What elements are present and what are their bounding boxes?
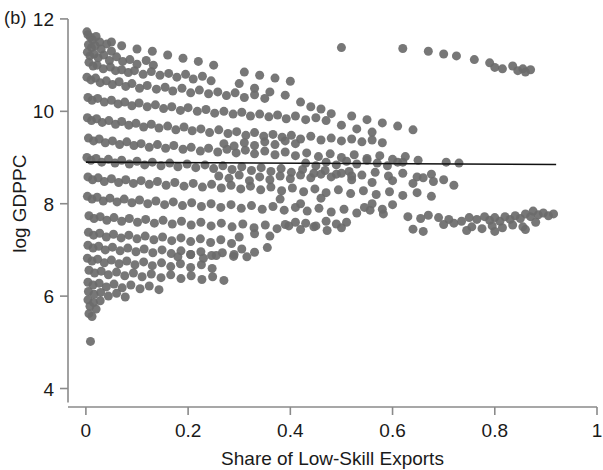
data-point bbox=[327, 109, 336, 118]
data-point bbox=[350, 150, 359, 159]
data-point bbox=[181, 70, 190, 79]
data-point bbox=[196, 147, 205, 156]
data-point bbox=[147, 269, 156, 278]
data-point bbox=[337, 169, 346, 178]
data-point bbox=[186, 263, 195, 272]
data-point bbox=[327, 134, 336, 143]
data-point bbox=[153, 177, 162, 186]
data-point bbox=[230, 141, 239, 150]
data-point bbox=[109, 230, 118, 239]
data-point bbox=[424, 211, 433, 220]
data-point bbox=[371, 168, 380, 177]
data-point bbox=[236, 184, 245, 193]
data-point bbox=[117, 217, 126, 226]
data-point bbox=[166, 262, 175, 271]
data-point bbox=[347, 111, 356, 120]
data-point bbox=[186, 88, 195, 97]
data-point bbox=[199, 254, 208, 263]
data-point bbox=[212, 251, 221, 260]
data-point bbox=[216, 203, 225, 212]
data-point bbox=[311, 221, 320, 230]
data-point bbox=[141, 232, 150, 241]
data-point bbox=[306, 132, 315, 141]
data-point bbox=[237, 204, 246, 213]
data-point bbox=[168, 87, 177, 96]
data-point bbox=[322, 217, 331, 226]
data-point bbox=[409, 125, 418, 134]
data-point bbox=[241, 131, 250, 140]
data-point bbox=[169, 141, 178, 150]
data-point bbox=[256, 185, 265, 194]
data-point bbox=[214, 125, 223, 134]
data-point bbox=[210, 109, 219, 118]
data-point bbox=[242, 252, 251, 261]
data-point bbox=[271, 150, 280, 159]
data-point bbox=[217, 219, 226, 228]
data-point bbox=[205, 128, 214, 137]
data-point bbox=[273, 111, 282, 120]
data-point bbox=[340, 205, 349, 214]
data-point bbox=[133, 157, 142, 166]
data-point bbox=[137, 176, 146, 185]
data-point bbox=[143, 199, 152, 208]
data-point bbox=[126, 281, 135, 290]
data-point bbox=[163, 122, 172, 131]
data-point bbox=[317, 170, 326, 179]
data-point bbox=[277, 186, 286, 195]
data-point bbox=[208, 264, 217, 273]
x-tick-label: 1 bbox=[592, 420, 603, 441]
data-point bbox=[160, 200, 169, 209]
data-point bbox=[327, 172, 336, 181]
data-point bbox=[187, 198, 196, 207]
data-point bbox=[161, 83, 170, 92]
data-point bbox=[219, 107, 228, 116]
data-point bbox=[403, 212, 412, 221]
data-point bbox=[368, 135, 377, 144]
data-point bbox=[291, 218, 300, 227]
data-point bbox=[470, 55, 479, 64]
data-point bbox=[271, 140, 280, 149]
data-point bbox=[96, 288, 105, 297]
data-point bbox=[281, 91, 290, 100]
data-point bbox=[238, 220, 247, 229]
data-point bbox=[337, 136, 346, 145]
data-point bbox=[196, 218, 205, 227]
data-point bbox=[368, 128, 377, 137]
data-point bbox=[276, 172, 285, 181]
data-point bbox=[148, 248, 157, 257]
data-point bbox=[110, 280, 119, 289]
data-point bbox=[149, 235, 158, 244]
data-point bbox=[393, 122, 402, 131]
scatter-plot: 468101200.20.40.60.81Share of Low-Skill … bbox=[0, 0, 603, 470]
x-tick-label: 0.8 bbox=[482, 420, 508, 441]
data-point bbox=[359, 186, 368, 195]
data-point bbox=[170, 178, 179, 187]
data-point bbox=[228, 165, 237, 174]
data-point bbox=[148, 47, 157, 56]
data-point bbox=[120, 195, 129, 204]
data-point bbox=[179, 54, 188, 63]
data-point bbox=[184, 103, 193, 112]
data-point bbox=[145, 180, 154, 189]
data-point bbox=[465, 213, 474, 222]
data-point bbox=[186, 250, 195, 259]
data-point bbox=[133, 234, 142, 243]
data-point bbox=[449, 219, 458, 228]
data-point bbox=[107, 38, 116, 47]
data-point bbox=[282, 114, 291, 123]
data-point bbox=[257, 163, 266, 172]
data-point bbox=[202, 105, 211, 114]
data-point bbox=[352, 208, 361, 217]
x-tick-label: 0.6 bbox=[379, 420, 405, 441]
data-point bbox=[250, 149, 259, 158]
data-point bbox=[164, 69, 173, 78]
data-point bbox=[261, 220, 270, 229]
data-point bbox=[255, 110, 264, 119]
data-point bbox=[334, 185, 343, 194]
data-point bbox=[176, 106, 185, 115]
data-point bbox=[86, 337, 95, 346]
data-point bbox=[112, 289, 121, 298]
data-point bbox=[326, 149, 335, 158]
data-points-layer bbox=[82, 27, 558, 346]
data-point bbox=[153, 140, 162, 149]
